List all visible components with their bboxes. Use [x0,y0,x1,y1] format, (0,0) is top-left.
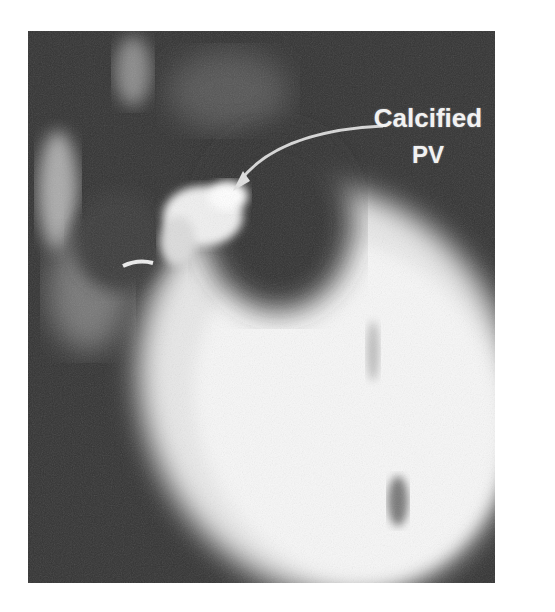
annotation-label-line1: Calcified [348,103,495,134]
annotation-label-line2: PV [348,141,495,169]
radiograph-image: Calcified PV [28,31,495,583]
